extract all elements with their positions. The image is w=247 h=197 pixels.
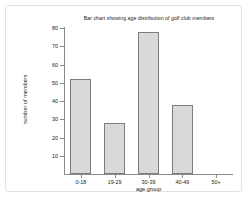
y-axis-tick [60,119,64,120]
x-axis-tick [115,175,116,178]
figure-frame: Bar chart showing age distribution of go… [5,5,242,192]
bar [70,79,91,174]
x-axis-tick [149,175,150,178]
y-axis-tick [60,28,64,29]
y-axis-tick [60,46,64,47]
y-axis-tick [60,101,64,102]
y-axis-tick [60,65,64,66]
bar [138,32,159,174]
x-axis-title: age group [64,186,233,193]
x-axis-tick-label: 50+ [196,179,236,186]
x-axis-tick [81,175,82,178]
y-axis-tick-label: 10 [36,153,58,159]
x-axis-tick [182,175,183,178]
y-axis-tick-label: 30 [36,116,58,122]
y-axis-tick [60,138,64,139]
chart-title: Bar chart showing age distribution of go… [56,15,242,22]
y-axis-line [64,27,65,175]
bar [172,105,193,174]
bar [104,123,125,174]
y-axis-title: number of members [22,60,29,140]
y-axis-tick [60,83,64,84]
x-axis-tick [216,175,217,178]
bar-chart: Bar chart showing age distribution of go… [6,6,243,193]
y-axis-tick-label: 70 [36,43,58,49]
y-axis-tick [60,156,64,157]
y-axis-tick-label: 80 [36,25,58,31]
y-axis-tick-label: 40 [36,98,58,104]
y-axis-tick-label: 20 [36,135,58,141]
y-axis-tick-label: 60 [36,62,58,68]
y-axis-tick-label: 50 [36,80,58,86]
